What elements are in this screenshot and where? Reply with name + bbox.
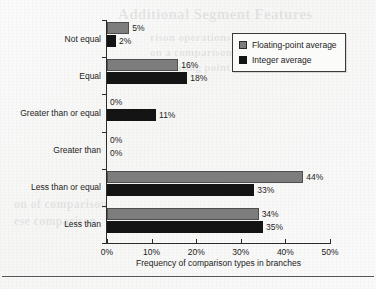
x-axis-tick-label: 0%	[101, 247, 113, 257]
x-axis-tick-label: 30%	[232, 247, 249, 257]
bar-value-label: 44%	[306, 172, 323, 182]
y-axis-tick	[102, 94, 106, 95]
y-axis-tick	[102, 20, 106, 21]
bar-integer[interactable]: 18%	[107, 72, 187, 84]
x-axis-line: 0%10%20%30%40%50%	[106, 243, 331, 244]
bar-group: Greater than or equal0%11%	[107, 94, 330, 131]
y-axis-tick	[102, 206, 106, 207]
bar-value-label: 0%	[110, 135, 122, 145]
legend-item[interactable]: Integer average	[239, 54, 337, 66]
page-divider-rule	[2, 276, 374, 277]
bar-chart: 0%10%20%30%40%50% Not equal5%2%Equal16%1…	[0, 0, 376, 289]
chart-legend: Floating-point averageInteger average	[232, 33, 346, 72]
x-axis-title: Frequency of comparison types in branche…	[107, 258, 330, 268]
bar-value-label: 5%	[132, 23, 144, 33]
y-axis-tick	[102, 169, 106, 170]
bar-integer[interactable]: 2%	[107, 35, 116, 47]
bar-value-label: 0%	[110, 97, 122, 107]
y-axis-tick	[102, 132, 106, 133]
legend-swatch-gray	[239, 41, 247, 49]
x-axis-tick-label: 40%	[277, 247, 294, 257]
y-axis-category-label: Less than or equal	[31, 182, 101, 192]
legend-item-label: Integer average	[252, 55, 312, 65]
bar-group: Less than or equal44%33%	[107, 169, 330, 206]
bar-value-label: 11%	[159, 110, 175, 120]
bar-value-label: 2%	[119, 36, 131, 46]
x-axis-tick-label: 10%	[143, 247, 160, 257]
y-axis-category-label: Equal	[79, 71, 101, 81]
bar-group: Greater than0%0%	[107, 132, 330, 169]
bar-integer[interactable]: 11%	[107, 109, 156, 121]
legend-item[interactable]: Floating-point average	[239, 39, 337, 51]
bar-group: Less than34%35%	[107, 206, 330, 243]
y-axis-category-label: Not equal	[65, 34, 101, 44]
x-axis-tick-label: 20%	[188, 247, 205, 257]
bar-value-label: 16%	[181, 60, 198, 70]
bar-value-label: 0%	[110, 148, 122, 158]
x-axis-tick-label: 50%	[321, 247, 338, 257]
legend-item-label: Floating-point average	[252, 40, 337, 50]
bar-value-label: 18%	[190, 73, 207, 83]
bar-integer[interactable]: 33%	[107, 184, 254, 196]
bar-integer[interactable]: 35%	[107, 221, 263, 233]
y-axis-category-label: Greater than	[53, 145, 101, 155]
y-axis-tick	[102, 57, 106, 58]
x-axis-tick	[330, 239, 331, 243]
bar-value-label: 34%	[262, 209, 279, 219]
legend-swatch-black	[239, 56, 247, 64]
bar-floating-point[interactable]: 16%	[107, 59, 178, 71]
y-axis-category-label: Less than	[64, 219, 101, 229]
y-axis-category-label: Greater than or equal	[20, 108, 101, 118]
bar-floating-point[interactable]: 44%	[107, 171, 303, 183]
bar-floating-point[interactable]: 34%	[107, 208, 259, 220]
bar-floating-point[interactable]: 5%	[107, 22, 129, 34]
bar-value-label: 33%	[257, 185, 274, 195]
bar-value-label: 35%	[266, 222, 283, 232]
